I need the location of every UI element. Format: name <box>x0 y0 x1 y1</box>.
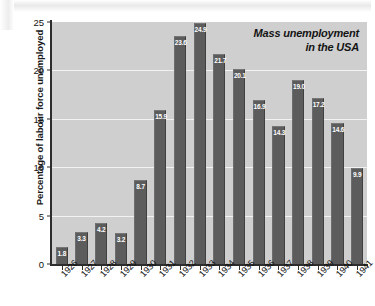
y-tick-label: 25 <box>22 17 44 28</box>
bar-value-label: 19.0 <box>293 83 303 91</box>
bar-value-label: 17.2 <box>313 101 323 109</box>
bar-value-label: 14.6 <box>332 126 342 134</box>
bar-value-label: 8.7 <box>135 183 145 191</box>
bar: 21.7 <box>213 54 225 264</box>
bar: 15.9 <box>154 110 166 264</box>
bar-value-label: 15.9 <box>155 113 165 121</box>
bar: 8.7 <box>134 180 146 264</box>
bar: 23.6 <box>174 36 186 264</box>
bar: 9.9 <box>351 168 363 264</box>
y-tick-label: 20 <box>22 65 44 76</box>
bar: 24.9 <box>194 23 206 264</box>
y-tick-label: 5 <box>22 210 44 221</box>
chart-title: Mass unemployment in the USA <box>254 26 359 54</box>
y-tick-label: 15 <box>22 113 44 124</box>
bar: 14.6 <box>331 123 343 264</box>
chart-title-line-1: Mass unemployment <box>254 26 359 40</box>
bar: 4.2 <box>95 223 107 264</box>
bar: 3.3 <box>75 232 87 264</box>
bar-value-label: 4.2 <box>96 226 106 234</box>
bar-value-label: 16.9 <box>254 103 264 111</box>
bar-value-label: 14.3 <box>273 129 283 137</box>
bar: 14.3 <box>272 126 284 264</box>
bar: 3.2 <box>115 233 127 264</box>
y-axis-tick-labels: 0510152025 <box>22 0 44 306</box>
bar: 19.0 <box>292 80 304 264</box>
chart-title-line-2: in the USA <box>254 40 359 54</box>
bar-value-label: 3.3 <box>76 235 86 243</box>
bar-value-label: 20.1 <box>234 72 244 80</box>
bar-value-label: 21.7 <box>214 57 224 65</box>
bar-value-label: 3.2 <box>116 236 126 244</box>
gridline <box>52 70 367 71</box>
bar-value-label: 23.6 <box>175 39 185 47</box>
plot-area: 1.83.34.23.28.715.923.624.921.720.116.91… <box>52 22 367 264</box>
y-tick-label: 10 <box>22 162 44 173</box>
bar: 17.2 <box>312 98 324 264</box>
y-tick-label: 0 <box>22 259 44 270</box>
bar-value-label: 24.9 <box>195 26 205 34</box>
bar-value-label: 9.9 <box>352 171 362 179</box>
bar: 1.8 <box>56 247 68 264</box>
bar-value-label: 1.8 <box>57 250 67 258</box>
bar: 16.9 <box>253 100 265 264</box>
bar: 20.1 <box>233 69 245 264</box>
